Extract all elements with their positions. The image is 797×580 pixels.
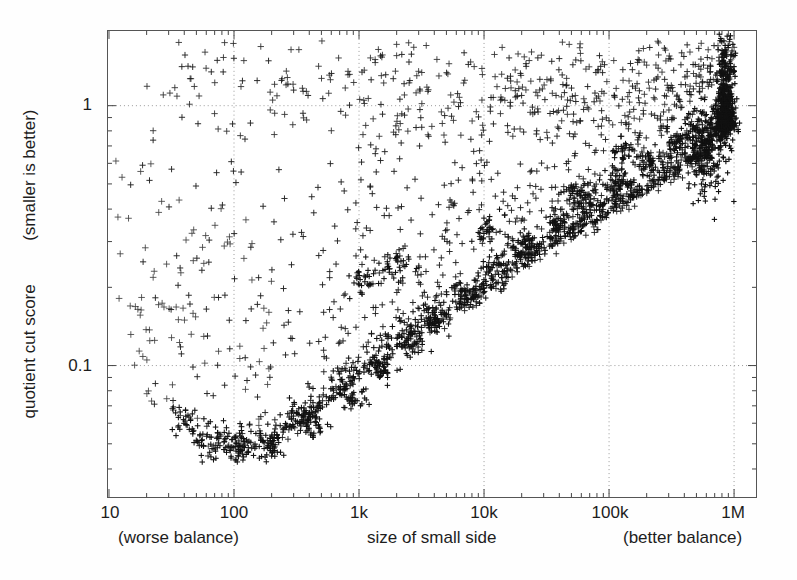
scatter-plot-svg [108, 31, 756, 497]
x-tick-label-1M: 1M [721, 503, 745, 523]
x-tick-label-1k: 1k [350, 503, 368, 523]
data-points [113, 32, 743, 465]
figure-canvas: quotient cut score (smaller is better) 1… [0, 0, 797, 580]
y-tick-label-1: 1 [58, 95, 92, 115]
axis-ticks [108, 31, 756, 497]
x-tick-label-10k: 10k [470, 503, 497, 523]
x-axis-label-right: (better balance) [623, 528, 742, 548]
x-axis-label: size of small side [367, 528, 496, 548]
x-tick-label-10: 10 [101, 503, 120, 523]
plot-area [107, 30, 757, 498]
y-tick-label-0.1: 0.1 [42, 356, 92, 376]
gridlines [108, 31, 756, 497]
y-axis-label-secondary: (smaller is better) [20, 110, 39, 241]
x-tick-label-100: 100 [220, 503, 248, 523]
y-axis-label-group: quotient cut score (smaller is better) [0, 30, 60, 498]
x-tick-label-100k: 100k [592, 503, 629, 523]
y-axis-label: quotient cut score (smaller is better) [20, 110, 40, 419]
x-axis-label-left: (worse balance) [118, 528, 239, 548]
y-axis-label-primary: quotient cut score [20, 284, 39, 418]
